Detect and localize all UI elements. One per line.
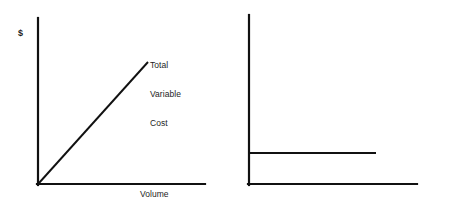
total-variable-cost-annotation: Total Variable Cost xyxy=(150,42,181,148)
total-variable-cost-line xyxy=(39,62,148,183)
total-variable-cost-annotation-line-1: Total xyxy=(150,61,181,71)
left-x-axis-label: Volume xyxy=(140,190,169,200)
variable-cost-figure: $ Total Variable Cost Volume $ Variable … xyxy=(0,0,460,212)
chart-right-canvas xyxy=(230,0,460,212)
total-variable-cost-annotation-line-3: Cost xyxy=(150,119,181,129)
chart-variable-cost-per-unit: $ Variable Cost per Unit Volume xyxy=(230,0,460,212)
chart-total-variable-cost: $ Total Variable Cost Volume xyxy=(0,0,230,212)
chart-left-canvas xyxy=(0,0,230,212)
total-variable-cost-annotation-line-2: Variable xyxy=(150,90,181,100)
left-y-axis-label: $ xyxy=(18,29,23,39)
